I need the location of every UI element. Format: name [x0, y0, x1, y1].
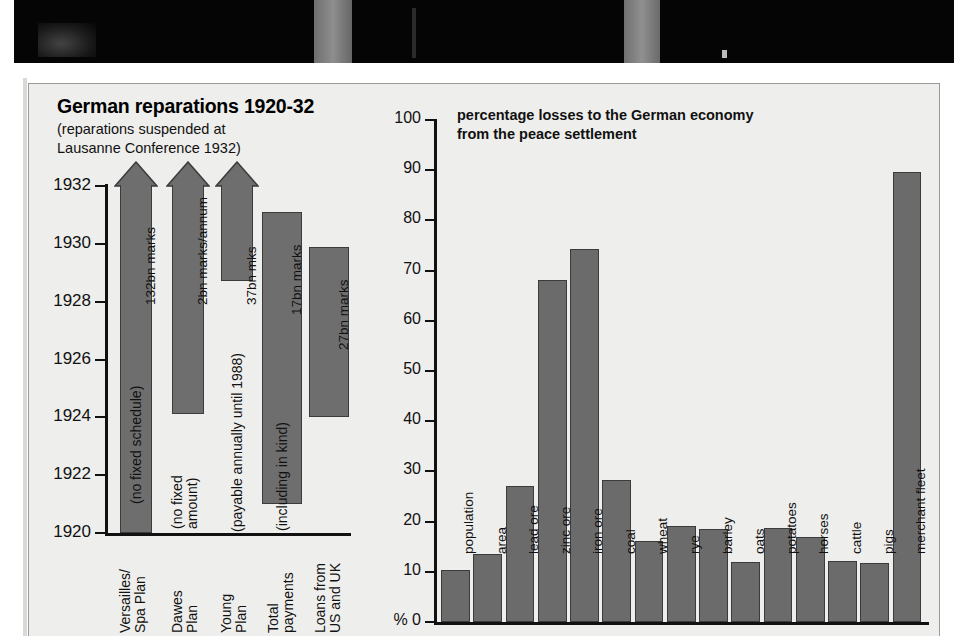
right-category-label: cattle: [849, 522, 864, 554]
right-bar: [473, 554, 502, 622]
charts-panel: German reparations 1920-32 (reparations …: [28, 83, 940, 636]
left-category-label: Loans fromUS and UK: [313, 563, 343, 633]
right-category-label: oats: [752, 528, 767, 554]
right-category-label: potatoes: [784, 502, 799, 554]
photo-figure-right: [624, 0, 660, 63]
right-category-label: area: [494, 527, 509, 554]
arrow-up-icon: [166, 161, 210, 187]
right-category-label: wheat: [655, 518, 670, 554]
right-category-label: iron ore: [590, 508, 605, 554]
photo-streak: [412, 8, 416, 58]
page-root: German reparations 1920-32 (reparations …: [0, 0, 954, 636]
right-y-tick-label: 80: [389, 209, 421, 227]
left-y-tick: [95, 185, 106, 187]
right-y-tick: [425, 621, 435, 623]
right-y-tick: [425, 470, 435, 472]
left-bar-amount-label: 27bn marks: [336, 279, 351, 350]
right-y-tick: [425, 169, 435, 171]
left-bar-amount-label: 37bn mks: [244, 246, 259, 305]
left-y-tick-label: 1932: [37, 175, 91, 195]
photograph-strip: [14, 0, 954, 63]
right-y-tick: [425, 219, 435, 221]
right-y-tick: [425, 521, 435, 523]
left-y-tick-label: 1926: [37, 349, 91, 369]
photo-figure-left: [314, 0, 352, 63]
right-y-tick-label: 10: [389, 561, 421, 579]
left-y-tick-label: 1928: [37, 291, 91, 311]
photo-highlight: [722, 50, 727, 58]
left-y-tick: [95, 474, 106, 476]
right-bar: [731, 562, 760, 622]
right-y-tick-label: 30: [389, 460, 421, 478]
right-y-tick-label: 90: [389, 159, 421, 177]
left-y-tick-label: 1922: [37, 464, 91, 484]
right-bar: [570, 249, 599, 622]
right-category-label: pigs: [881, 529, 896, 554]
left-chart-y-tick-labels: 1932193019281926192419221920: [29, 84, 91, 636]
right-y-tick-label: 20: [389, 511, 421, 529]
left-y-tick-label: 1920: [37, 522, 91, 542]
right-category-label: coal: [623, 529, 638, 554]
right-y-tick: [425, 420, 435, 422]
right-category-label: horses: [816, 513, 831, 554]
left-y-tick-label: 1924: [37, 406, 91, 426]
left-bar-note-label: (no fixed schedule): [129, 386, 144, 504]
photo-smudge: [38, 23, 96, 57]
right-y-tick-label: 70: [389, 260, 421, 278]
left-category-label: DawesPlan: [170, 590, 200, 633]
left-chart-title: German reparations 1920-32: [57, 95, 314, 118]
left-y-tick: [95, 416, 106, 418]
right-y-tick: [425, 571, 435, 573]
left-chart-german-reparations: German reparations 1920-32 (reparations …: [29, 84, 389, 636]
left-y-tick-label: 1930: [37, 233, 91, 253]
left-bar-amount-label: 132bn marks: [143, 227, 158, 305]
right-y-tick: [425, 270, 435, 272]
left-y-tick: [95, 301, 106, 303]
left-y-tick: [95, 532, 106, 534]
right-y-tick: [425, 370, 435, 372]
right-y-tick-label: 50: [389, 360, 421, 378]
right-category-label: zinc ore: [558, 507, 573, 554]
left-bar-amount-label: 17bn marks: [289, 244, 304, 315]
left-bar-note-label: (payable annually until 1988): [230, 353, 245, 532]
right-y-tick: [425, 119, 435, 121]
right-category-label: population: [461, 492, 476, 554]
right-bar: [828, 561, 857, 622]
right-chart-percentage-losses: percentage losses to the German economyf…: [389, 84, 941, 636]
left-y-tick: [95, 359, 106, 361]
right-category-label: rye: [687, 535, 702, 554]
right-y-tick-label: % 0: [383, 611, 421, 629]
right-category-label: barley: [720, 517, 735, 554]
right-chart-x-axis: [434, 622, 929, 625]
left-category-label: Totalpayments: [266, 572, 296, 633]
left-bar-note-label: (including in kind): [275, 422, 290, 531]
right-category-label: lead ore: [526, 505, 541, 554]
right-y-tick-label: 100: [389, 109, 421, 127]
right-bar: [860, 563, 889, 622]
left-y-tick: [95, 243, 106, 245]
left-chart-x-axis: [105, 533, 351, 536]
right-bar: [893, 172, 922, 622]
right-bar: [441, 570, 470, 622]
right-y-tick: [425, 320, 435, 322]
right-y-tick-label: 60: [389, 310, 421, 328]
arrow-up-icon: [215, 161, 259, 187]
right-bar: [538, 280, 567, 622]
left-category-label: YoungPlan: [219, 594, 249, 633]
left-category-label: Versailles/Spa Plan: [118, 569, 148, 633]
arrow-up-icon: [114, 161, 158, 187]
right-chart-title: percentage losses to the German economyf…: [457, 106, 754, 144]
left-bar-note-label: (no fixedamount): [170, 475, 200, 529]
right-category-label: merchant fleet: [913, 468, 928, 554]
right-y-tick-label: 40: [389, 410, 421, 428]
right-chart-y-axis: [434, 119, 437, 625]
left-bar-amount-label: 2bn marks/annum: [195, 197, 210, 305]
